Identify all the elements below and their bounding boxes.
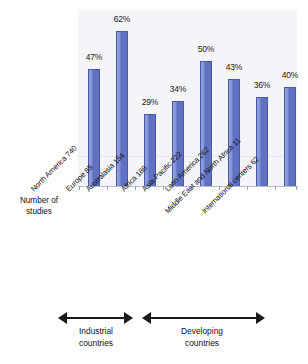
bar-chart-figure: 47% 62% 29% 34% 50% 43% 36% 40% (0, 0, 308, 364)
bar-slot: 43% (221, 10, 247, 187)
arrow-line (148, 317, 260, 319)
bar[interactable] (284, 87, 296, 187)
group-label-line2: countries (46, 338, 146, 350)
bar-value-label: 43% (217, 62, 251, 72)
group-label-line1: Developing (152, 326, 252, 338)
bar-value-label: 36% (245, 80, 279, 90)
group-label-developing: Developing countries (152, 326, 252, 349)
bar-value-label: 50% (189, 44, 223, 54)
group-annotations: Industrial countries Developing countrie… (0, 306, 308, 364)
bar-slot: 29% (137, 10, 163, 187)
bar-value-label: 62% (105, 14, 139, 24)
bar-slot: 47% (81, 10, 107, 187)
bar-slot: 40% (277, 10, 303, 187)
bar-value-label: 29% (133, 97, 167, 107)
x-axis-labels: North America 740 Europe 85 Australasia … (0, 187, 308, 292)
bar-value-label: 40% (273, 70, 307, 80)
arrow-line (64, 317, 128, 319)
bar[interactable] (256, 97, 268, 187)
group-label-line2: countries (152, 338, 252, 350)
arrow-right-icon (124, 312, 133, 324)
group-label-industrial: Industrial countries (46, 326, 146, 349)
bar-value-label: 47% (77, 52, 111, 62)
arrow-right-icon (256, 312, 265, 324)
group-label-line1: Industrial (46, 326, 146, 338)
bar-value-label: 34% (161, 84, 195, 94)
